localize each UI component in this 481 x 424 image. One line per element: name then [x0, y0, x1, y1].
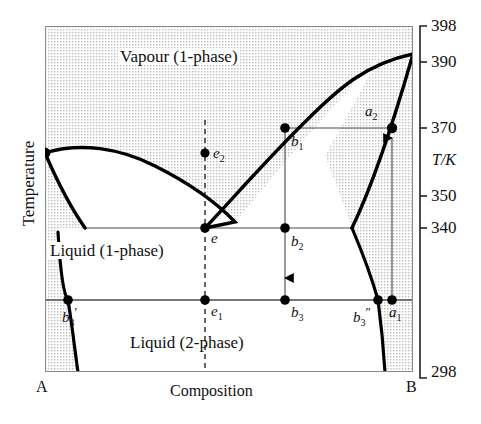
point-label-b2-sub: 2: [299, 241, 304, 252]
point-label-b3-dprime-mark: ″: [366, 304, 371, 319]
point-label-b1-sub: 1: [299, 141, 304, 152]
point-a2: [387, 123, 397, 133]
x-axis-title: Composition: [170, 383, 253, 399]
point-label-e2: e2: [213, 146, 225, 164]
y-tick-390: 390: [431, 53, 457, 70]
point-b2: [280, 223, 290, 233]
point-label-b3: b3: [291, 305, 304, 323]
phase-diagram-figure: Vapour (1-phase) Liquid (1-phase) Liquid…: [0, 0, 481, 424]
corner-label-B: B: [406, 379, 417, 395]
point-label-b3-dprime-text: b: [353, 309, 361, 325]
point-label-a1-sub: 1: [397, 312, 402, 323]
point-label-b1-text: b: [291, 133, 299, 149]
point-e2: [200, 148, 209, 157]
point-label-e2-sub: 2: [220, 153, 225, 164]
y-tick-350: 350: [431, 187, 457, 204]
point-label-a2-sub: 2: [373, 111, 378, 122]
point-label-a1: a1: [389, 305, 402, 323]
point-label-a2: a2: [365, 104, 378, 122]
point-label-e1-sub: 1: [218, 311, 223, 322]
region-label-vapour: Vapour (1-phase): [118, 48, 240, 65]
region-label-liquid-1phase: Liquid (1-phase): [48, 242, 166, 259]
point-label-e1: e1: [211, 304, 223, 322]
point-label-e-text: e: [211, 230, 218, 246]
point-label-b3-prime-text: b: [62, 309, 70, 325]
point-label-b3-prime-mark: ′: [75, 304, 78, 319]
point-label-b3-prime: b3′: [62, 305, 77, 328]
point-b3-prime: [63, 295, 73, 305]
point-e1: [200, 295, 210, 305]
point-label-b2-text: b: [291, 233, 299, 249]
point-label-a1-text: a: [389, 304, 397, 320]
point-label-b2: b2: [291, 234, 304, 252]
point-label-b3-sub: 3: [299, 312, 304, 323]
point-b3-dprime: [373, 295, 383, 305]
y-tick-370: 370: [431, 119, 457, 136]
right-axis-title: T/K: [432, 152, 456, 168]
right-axis-spine: [414, 20, 432, 382]
point-label-e1-text: e: [211, 303, 218, 319]
corner-label-A: A: [36, 379, 48, 395]
liquid-1phase-lower-fill: [58, 228, 378, 300]
y-tick-298: 298: [431, 363, 457, 380]
point-b3: [280, 295, 290, 305]
point-e: [200, 223, 210, 233]
point-label-e2-text: e: [213, 145, 220, 161]
y-tick-340: 340: [431, 219, 457, 236]
region-label-liquid-2phase: Liquid (2-phase): [128, 334, 246, 351]
plot-area: Vapour (1-phase) Liquid (1-phase) Liquid…: [45, 26, 413, 372]
y-axis-title: Temperature: [20, 104, 37, 264]
point-b1: [280, 123, 290, 133]
y-tick-398: 398: [431, 17, 457, 34]
point-label-b3-dprime: b3″: [353, 305, 371, 328]
point-label-b1: b1: [291, 134, 304, 152]
point-label-b3-text: b: [291, 304, 299, 320]
point-label-e: e: [211, 231, 218, 246]
point-label-a2-text: a: [365, 103, 373, 119]
